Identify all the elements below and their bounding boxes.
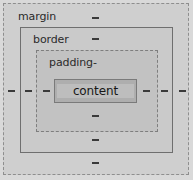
box-model-diagram: margin border padding- content xyxy=(0,0,193,180)
dash-marker-top-1 xyxy=(92,38,99,40)
dash-marker-bottom-0 xyxy=(92,115,99,117)
padding-box-label: padding- xyxy=(49,57,97,69)
dash-marker-right-2 xyxy=(179,90,186,92)
dash-marker-right-1 xyxy=(161,90,168,92)
border-box-label: border xyxy=(33,34,69,46)
dash-marker-bottom-2 xyxy=(92,162,99,164)
margin-box-label: margin xyxy=(18,11,56,23)
dash-marker-top-0 xyxy=(92,17,99,19)
dash-marker-right-0 xyxy=(143,90,150,92)
dash-marker-left-0 xyxy=(8,90,15,92)
dash-marker-left-1 xyxy=(25,90,32,92)
content-box-label: content xyxy=(54,84,137,98)
dash-marker-left-2 xyxy=(43,90,50,92)
dash-marker-bottom-1 xyxy=(92,139,99,141)
